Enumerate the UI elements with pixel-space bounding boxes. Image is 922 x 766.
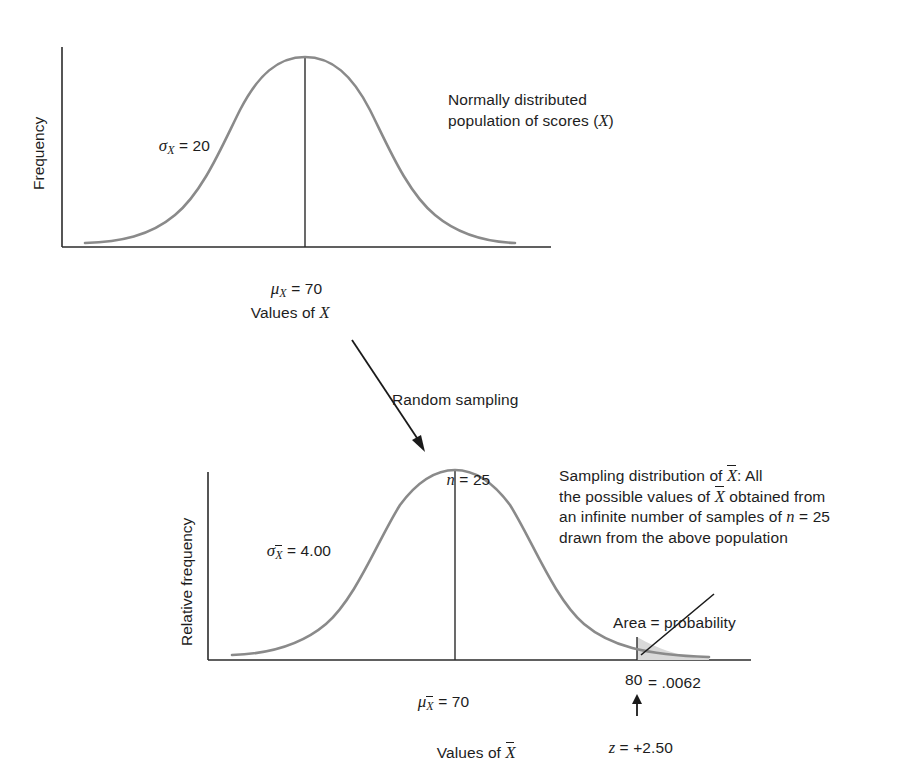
random-sampling-line-2: n = 25 <box>392 450 518 510</box>
sampling-desc-text-3b: = 25 <box>795 508 830 525</box>
xbar-symbol-2: X <box>715 487 725 508</box>
sigma-symbol-bottom: σ <box>267 541 275 560</box>
sampling-desc-text-2: the possible values of <box>559 488 715 505</box>
sampling-desc-text-1: Sampling distribution of <box>559 467 727 484</box>
statistics-figure: Frequency σX = 20 Normally distributed p… <box>0 0 922 766</box>
bottom-x-axis-label: Values of X <box>419 723 516 766</box>
top-x-axis-label: Values of X <box>233 283 330 343</box>
sigma-subscript: X <box>167 143 174 157</box>
mu-subscript-xbar: X <box>426 696 433 716</box>
n-value: = 25 <box>455 471 490 488</box>
area-probability-annotation: Area = probability = .0062 <box>613 573 736 733</box>
population-sigma-label: σX = 20 <box>141 116 210 180</box>
population-description: Normally distributed population of score… <box>448 90 708 131</box>
bottom-x-axis-symbol: X <box>505 743 515 763</box>
sampling-description: Sampling distribution of X: All the poss… <box>559 466 919 548</box>
bottom-x-axis-label-prefix: Values of <box>437 744 506 761</box>
n-symbol-2: n <box>786 507 794 526</box>
sampling-description-line-3: an infinite number of samples of n = 25 <box>559 507 919 528</box>
sigma-symbol: σ <box>159 136 167 155</box>
sampling-sigma-label: σX = 4.00 <box>249 521 331 585</box>
z-score-label: z = +2.50 <box>591 718 673 766</box>
x-tick-label-80: 80 <box>625 670 642 690</box>
sigma-value: = 20 <box>175 137 210 154</box>
sigma-value-bottom: = 4.00 <box>283 542 332 559</box>
mu-symbol-bottom: μ <box>418 692 427 711</box>
random-sampling-label: Random sampling n = 25 <box>392 350 518 550</box>
random-sampling-line-1: Random sampling <box>392 390 518 410</box>
mu-value-bottom: = 70 <box>434 693 469 710</box>
z-value: = +2.50 <box>615 739 673 756</box>
population-description-line-1: Normally distributed <box>448 90 708 111</box>
sampling-description-line-2: the possible values of X obtained from <box>559 487 919 508</box>
population-description-text: population of scores ( <box>448 112 598 129</box>
xbar-symbol-1: X <box>727 466 737 487</box>
top-x-axis-label-prefix: Values of <box>251 304 320 321</box>
sampling-desc-text-1b: : All <box>737 467 762 484</box>
bottom-y-axis-label: Relative frequency <box>178 518 196 646</box>
top-x-axis-symbol: X <box>319 303 329 322</box>
population-description-paren: ) <box>609 112 614 129</box>
x-symbol: X <box>598 111 608 130</box>
sampling-description-line-4: drawn from the above population <box>559 528 919 549</box>
population-description-line-2: population of scores (X) <box>448 111 708 132</box>
sampling-desc-text-2b: obtained from <box>725 488 826 505</box>
sampling-description-line-1: Sampling distribution of X: All <box>559 466 919 487</box>
top-y-axis-label: Frequency <box>30 117 48 190</box>
top-panel-axes <box>62 47 551 247</box>
n-symbol: n <box>447 470 455 489</box>
sigma-subscript-xbar: X <box>275 545 282 565</box>
area-probability-line-1: Area = probability <box>613 613 736 633</box>
sampling-desc-text-3: an infinite number of samples of <box>559 508 786 525</box>
